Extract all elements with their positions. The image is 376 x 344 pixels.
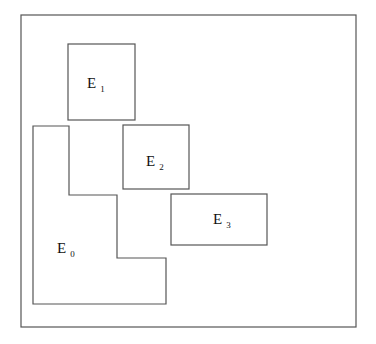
- label-e1: E1: [87, 75, 105, 94]
- region-e1: [68, 44, 135, 120]
- region-e2: [123, 125, 189, 189]
- label-e0: E0: [57, 240, 75, 259]
- diagram-canvas: E1 E2 E3 E0: [0, 0, 376, 344]
- label-e2: E2: [146, 153, 164, 172]
- label-e3: E3: [213, 211, 231, 230]
